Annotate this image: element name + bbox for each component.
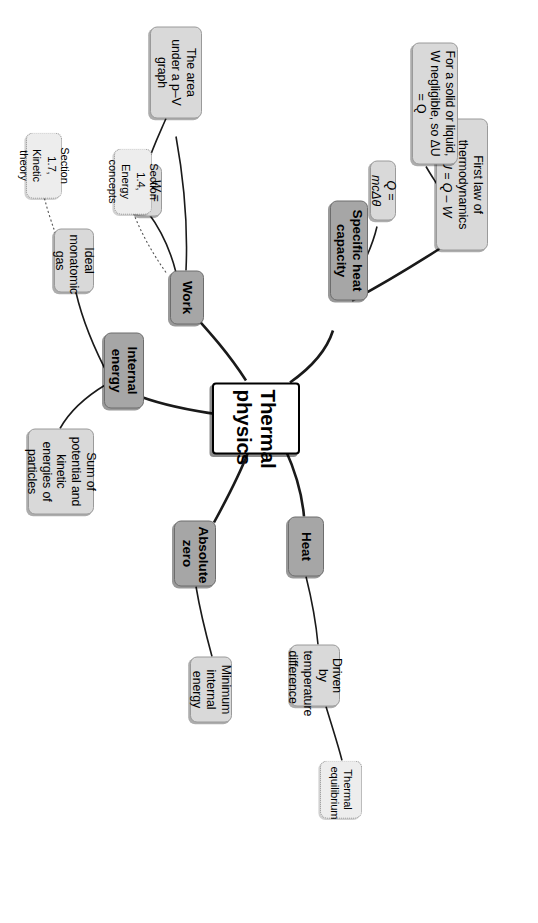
branch-node-internal-energy[interactable]: Internal energy bbox=[104, 332, 144, 408]
child-node-q-mc-delta-theta[interactable]: Q = mcΔθ bbox=[370, 160, 396, 220]
link-temp-thermal-equilibrium bbox=[326, 706, 342, 760]
child-label-sum-of-energies: Sum of potential and kinetic energies of… bbox=[24, 434, 97, 508]
child-label-solid-or-liquid: For a solid or liquid, W negligible, so … bbox=[413, 48, 457, 158]
child-label-area-under-pv-graph: The area under a p–V graph bbox=[154, 32, 198, 112]
link-center-specific-heat-capacity bbox=[290, 330, 333, 382]
branch-node-work[interactable]: Work bbox=[170, 270, 204, 324]
center-node-label: Thermal physics bbox=[232, 389, 280, 447]
branch-node-absolute-zero[interactable]: Absolute zero bbox=[174, 520, 216, 586]
child-label-ideal-monatomic-gas: Ideal monatomic gas bbox=[52, 234, 96, 286]
branch-label-absolute-zero: Absolute zero bbox=[179, 526, 211, 580]
branch-label-heat: Heat bbox=[298, 522, 314, 570]
child-label-driven-by-temperature-difference: Driven by temperature difference bbox=[286, 650, 345, 700]
link-internal-energy-sum-energies bbox=[60, 384, 106, 428]
link-center-internal-energy bbox=[140, 396, 220, 414]
link-heat-driven-by-temp bbox=[306, 576, 318, 644]
child-label-first-law-line1: First law of thermodynamics bbox=[456, 124, 485, 244]
link-absolute-zero-min-internal-energy bbox=[196, 586, 212, 656]
link-center-heat bbox=[285, 448, 304, 516]
xref-label-section-1-4-line1: Section 1.4, bbox=[134, 154, 160, 208]
child-node-area-under-pv-graph[interactable]: The area under a p–V graph bbox=[150, 26, 202, 118]
rotated-diagram-stage: Thermal physics Specific heat capacity Q… bbox=[0, 0, 538, 923]
child-node-ideal-monatomic-gas[interactable]: Ideal monatomic gas bbox=[54, 228, 94, 292]
branch-label-specific-heat-capacity: Specific heat capacity bbox=[333, 206, 365, 294]
child-node-thermal-equilibrium[interactable]: Thermal equilibrium bbox=[320, 760, 362, 818]
child-node-solid-or-liquid[interactable]: For a solid or liquid, W negligible, so … bbox=[412, 42, 458, 164]
branch-label-internal-energy: Internal energy bbox=[108, 338, 140, 402]
xref-label-section-1-7-line1: Section 1.7, bbox=[45, 138, 71, 192]
link-work-area-graph bbox=[176, 136, 187, 270]
center-node-thermal-physics[interactable]: Thermal physics bbox=[212, 382, 300, 454]
xref-note-section-1-7[interactable]: Section 1.7, Kinetic theory bbox=[26, 132, 62, 198]
branch-node-specific-heat-capacity[interactable]: Specific heat capacity bbox=[330, 200, 368, 300]
branch-node-heat[interactable]: Heat bbox=[288, 516, 324, 576]
child-label-minimum-internal-energy: Minimum internal energy bbox=[189, 662, 233, 716]
mind-map-canvas: Thermal physics Specific heat capacity Q… bbox=[0, 0, 538, 923]
child-label-thermal-equilibrium: Thermal equilibrium bbox=[328, 766, 354, 812]
link-work-w-equation bbox=[148, 212, 176, 272]
child-node-driven-by-temperature-difference[interactable]: Driven by temperature difference bbox=[290, 644, 340, 706]
xref-label-section-1-7-line2: Kinetic theory bbox=[17, 138, 43, 192]
xref-note-section-1-4[interactable]: Section 1.4, Energy concepts bbox=[114, 148, 152, 214]
xref-link-work-section-1-4 bbox=[134, 214, 166, 272]
xref-label-section-1-4-line2: Energy concepts bbox=[106, 154, 132, 208]
child-node-sum-of-energies[interactable]: Sum of potential and kinetic energies of… bbox=[28, 428, 94, 514]
child-label-q-mc-delta-theta: Q = mcΔθ bbox=[368, 166, 397, 214]
branch-label-work: Work bbox=[179, 276, 195, 318]
child-node-minimum-internal-energy[interactable]: Minimum internal energy bbox=[190, 656, 232, 722]
